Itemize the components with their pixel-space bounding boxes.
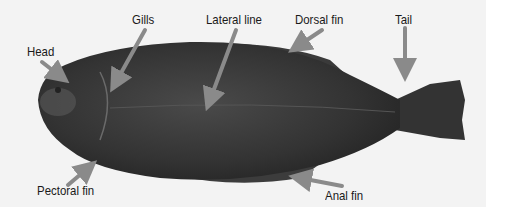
tail-fin-shape	[395, 80, 465, 140]
label-pectoral-fin: Pectoral fin	[37, 183, 94, 198]
label-lateral-line: Lateral line	[206, 12, 262, 27]
dorsal-fin-arrow	[298, 30, 322, 46]
label-head: Head	[27, 44, 54, 59]
label-dorsal-fin: Dorsal fin	[295, 12, 343, 27]
label-tail: Tail	[395, 12, 412, 27]
anal-fin-arrow	[300, 178, 342, 186]
label-gills: Gills	[132, 12, 154, 27]
label-anal-fin: Anal fin	[325, 188, 363, 203]
fish-body-shape	[38, 42, 400, 180]
fish-anatomy-diagram: Head Gills Lateral line Dorsal fin Tail …	[0, 0, 515, 220]
